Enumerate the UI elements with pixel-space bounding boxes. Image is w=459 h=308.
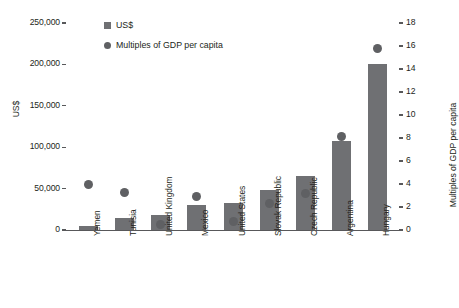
- y-tick-left: [62, 147, 66, 148]
- x-tick-label-united-kingdom: United Kingdom: [164, 176, 174, 236]
- y-tick-right: [399, 91, 403, 92]
- y-tick-left: [62, 64, 66, 65]
- y-tick-label-left: 200,000: [0, 58, 60, 68]
- y-tick-label-right: 16: [406, 40, 428, 50]
- y-tick-left: [62, 188, 66, 189]
- x-tick-label-united-states: United States: [237, 186, 247, 236]
- x-tick-label-yemen: Yemen: [92, 210, 102, 236]
- dot-mexico: [192, 192, 201, 201]
- y-tick-right: [399, 183, 403, 184]
- y-tick-right: [399, 160, 403, 161]
- y-tick-right: [399, 114, 403, 115]
- y-tick-right: [399, 206, 403, 207]
- legend-square-icon: [104, 22, 111, 29]
- legend-item-usd: US$: [104, 20, 223, 30]
- y-tick-label-right: 8: [406, 132, 428, 142]
- y-tick-label-right: 12: [406, 86, 428, 96]
- y-tick-label-right: 14: [406, 63, 428, 73]
- x-axis-line: [66, 230, 399, 231]
- y-tick-label-left: 100,000: [0, 141, 60, 151]
- y-tick-label-left: 50,000: [0, 183, 60, 193]
- dot-yemen: [84, 180, 93, 189]
- x-tick-label-tunisia: Tunisia: [128, 209, 138, 236]
- y-tick-label-right: 10: [406, 109, 428, 119]
- bar-chart: US$ Multiples of GDP per capita US$ Mult…: [0, 0, 459, 308]
- y-tick-left: [62, 105, 66, 106]
- x-tick-label-slovak-republic: Slovak Republic: [273, 176, 283, 236]
- legend-circle-icon: [104, 42, 111, 49]
- x-tick-label-czech-republic: Czech Republic: [309, 177, 319, 236]
- y-tick-right: [399, 22, 403, 23]
- legend-label-multiples: Multiples of GDP per capita: [116, 40, 223, 50]
- x-tick-label-mexico: Mexico: [200, 209, 210, 236]
- y-tick-label-left: 0: [0, 224, 60, 234]
- chart-legend: US$ Multiples of GDP per capita: [104, 20, 223, 60]
- y-tick-left: [62, 22, 66, 23]
- y-tick-label-right: 6: [406, 155, 428, 165]
- y-tick-right: [399, 137, 403, 138]
- y-tick-label-right: 0: [406, 224, 428, 234]
- y-tick-right: [399, 45, 403, 46]
- y-tick-label-right: 4: [406, 178, 428, 188]
- y-tick-label-left: 250,000: [0, 17, 60, 27]
- dot-hungary: [373, 44, 382, 53]
- y-tick-label-right: 18: [406, 17, 428, 27]
- legend-label-usd: US$: [116, 20, 133, 30]
- y-tick-right: [399, 229, 403, 230]
- y-tick-label-left: 150,000: [0, 100, 60, 110]
- legend-item-multiples: Multiples of GDP per capita: [104, 40, 223, 50]
- dot-tunisia: [120, 188, 129, 197]
- y-tick-label-right: 2: [406, 201, 428, 211]
- y-tick-right: [399, 68, 403, 69]
- y-axis-title-right: Multiples of GDP per capita: [448, 95, 458, 215]
